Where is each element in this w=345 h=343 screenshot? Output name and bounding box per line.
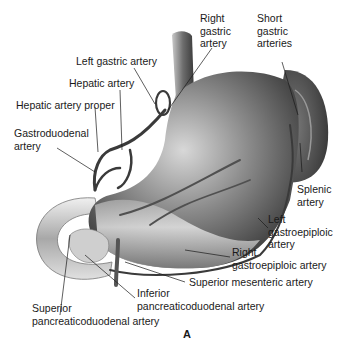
label-right-gastroepiploic-artery: Right gastroepiploic artery bbox=[232, 246, 327, 271]
label-hepatic-artery-proper: Hepatic artery proper bbox=[16, 99, 115, 112]
label-hepatic-artery: Hepatic artery bbox=[69, 77, 134, 90]
panel-label: A bbox=[183, 328, 191, 340]
anatomy-figure: Right gastric artery Short gastric arter… bbox=[0, 0, 345, 343]
label-left-gastric-artery: Left gastric artery bbox=[76, 55, 157, 68]
label-splenic-artery: Splenic artery bbox=[297, 183, 331, 208]
label-superior-pancreaticoduodenal-artery: Superior pancreaticoduodenal artery bbox=[32, 302, 159, 327]
label-gastroduodenal-artery: Gastroduodenal artery bbox=[14, 127, 89, 152]
label-left-gastroepiploic-artery: Left gastroepiploic artery bbox=[268, 213, 333, 251]
label-right-gastric-artery: Right gastric artery bbox=[200, 12, 231, 50]
label-short-gastric-arteries: Short gastric arteries bbox=[257, 12, 292, 50]
